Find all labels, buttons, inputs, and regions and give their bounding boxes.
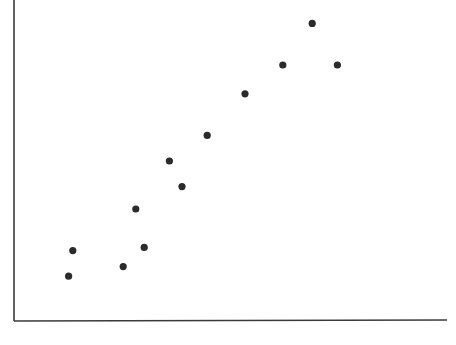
data-point bbox=[166, 157, 173, 164]
data-point bbox=[69, 247, 76, 254]
data-point bbox=[279, 61, 286, 68]
x-axis-line bbox=[14, 320, 447, 321]
data-point bbox=[241, 90, 248, 97]
data-point bbox=[65, 273, 72, 280]
data-point bbox=[132, 205, 139, 212]
data-point bbox=[120, 263, 127, 270]
scatter-chart bbox=[0, 0, 456, 345]
data-point bbox=[141, 244, 148, 251]
data-points bbox=[65, 20, 341, 280]
data-point bbox=[204, 132, 211, 139]
data-point bbox=[309, 20, 316, 27]
axes bbox=[14, 0, 447, 321]
data-point bbox=[178, 183, 185, 190]
data-point bbox=[334, 61, 341, 68]
